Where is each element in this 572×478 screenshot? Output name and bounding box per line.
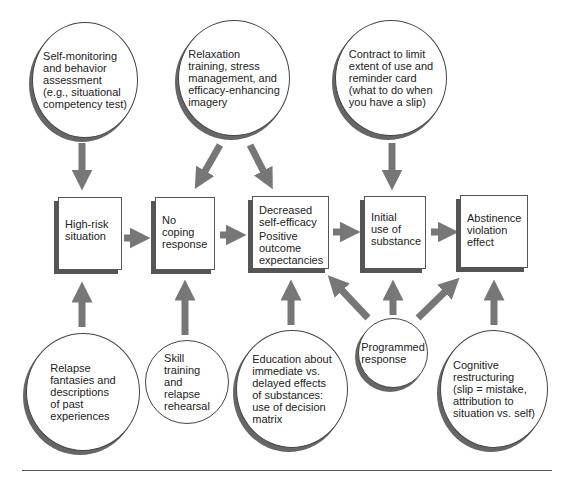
circle-contract: Contract to limit extent of use and remi…	[335, 20, 447, 136]
circle-cognitive: Cognitive restructuring (slip = mistake,…	[440, 330, 548, 448]
box-abstinence-text: Abstinence violation effect	[467, 212, 521, 248]
circle-contract-text: Contract to limit extent of use and remi…	[349, 48, 433, 108]
box-no-coping-text: No coping response	[162, 214, 208, 250]
circle-education-text: Education about immediate vs. delayed ef…	[252, 353, 332, 425]
arrow-programmed-to-abstinence	[418, 285, 452, 318]
circle-self-monitoring: Self-monitoring and behavior assessment …	[32, 22, 138, 138]
circle-skill-training: Skill training and relapse rehearsal	[145, 340, 229, 424]
arrow-relax-to-decreased	[250, 145, 268, 180]
circle-education: Education about immediate vs. delayed ef…	[236, 330, 348, 448]
circle-programmed-text: Programmed response	[361, 341, 425, 365]
circle-relaxation: Relaxation training, stress management, …	[178, 20, 290, 136]
circle-relapse-fantasies-text: Relapse fantasies and descriptions of pa…	[50, 362, 115, 422]
box-no-coping: No coping response	[155, 197, 215, 270]
box-decreased: Decreased self-efficacy Positive outcome…	[252, 196, 329, 269]
circle-self-monitoring-text: Self-monitoring and behavior assessment …	[43, 50, 127, 110]
box-initial-use-text: Initial use of substance	[371, 211, 419, 247]
box-high-risk-text: High-risk situation	[65, 218, 115, 242]
box-initial-use: Initial use of substance	[364, 196, 426, 269]
circle-relaxation-text: Relaxation training, stress management, …	[188, 48, 280, 108]
arrow-programmed-to-decreased	[335, 283, 368, 318]
circle-skill-training-text: Skill training and relapse rehearsal	[164, 352, 210, 412]
arrow-relax-to-nocoping	[200, 145, 220, 180]
box-decreased-text-2: Positive outcome expectancies	[259, 230, 322, 266]
circle-relapse-fantasies: Relapse fantasies and descriptions of pa…	[26, 333, 140, 451]
circle-programmed: Programmed response	[358, 318, 428, 388]
bottom-divider	[22, 470, 552, 471]
box-abstinence: Abstinence violation effect	[460, 195, 528, 268]
circle-cognitive-text: Cognitive restructuring (slip = mistake,…	[453, 359, 535, 419]
box-high-risk: High-risk situation	[58, 197, 122, 270]
box-decreased-text-1: Decreased self-efficacy	[259, 204, 322, 228]
